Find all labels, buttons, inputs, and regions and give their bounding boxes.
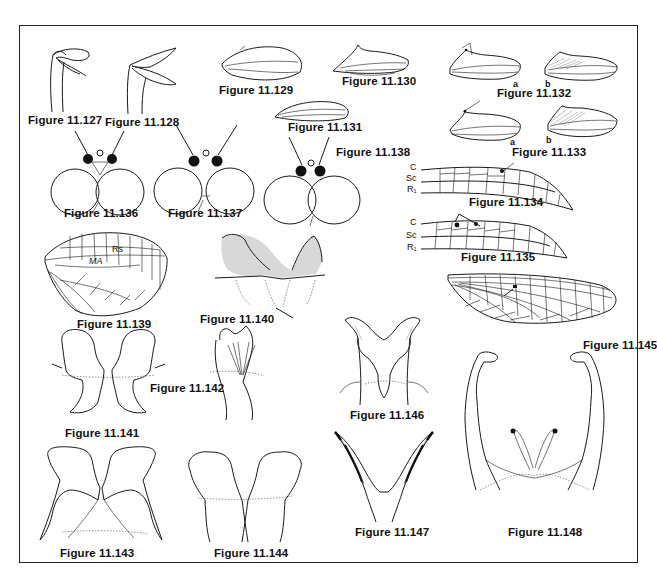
vein-label-c-11-135: C [410, 217, 417, 227]
vein-label-ma: MA [89, 256, 103, 266]
vein-label-r1-11-134: R₁ [407, 184, 417, 194]
figure-label-11-130: Figure 11.130 [342, 75, 416, 87]
figure-label-11-137: Figure 11.137 [168, 207, 242, 219]
figure-11-148-drawing [465, 352, 604, 490]
figure-11-128-drawing [127, 48, 176, 114]
figure-11-139-drawing [45, 233, 167, 316]
figure-11-144-drawing [189, 452, 302, 542]
vein-label-c-11-134: C [410, 162, 417, 172]
figure-label-11-148: Figure 11.148 [508, 526, 582, 538]
figure-label-11-133: Figure 11.133 [512, 146, 586, 158]
figure-label-11-138: Figure 11.138 [336, 146, 410, 158]
vein-label-sc-11-134: Sc [406, 173, 417, 183]
vein-label-r1-11-135: R₁ [407, 242, 417, 252]
figure-label-11-145: Figure 11.145 [583, 339, 657, 351]
figure-label-11-131: Figure 11.131 [288, 121, 362, 133]
figure-label-11-142: Figure 11.142 [150, 382, 224, 394]
figure-label-11-134: Figure 11.134 [469, 196, 543, 208]
figure-11-141-drawing [52, 330, 165, 413]
figure-11-143-drawing [40, 447, 162, 540]
figure-label-11-143: Figure 11.143 [60, 547, 134, 559]
figure-11-145-drawing [448, 274, 616, 323]
figure-label-11-147: Figure 11.147 [355, 526, 429, 538]
figure-label-11-129: Figure 11.129 [219, 84, 293, 96]
figure-label-11-132: Figure 11.132 [497, 87, 571, 99]
figure-11-140-drawing [215, 234, 325, 318]
figure-11-133-drawing [450, 101, 617, 140]
vein-label-rs: Rs [112, 244, 123, 254]
figure-label-11-144: Figure 11.144 [214, 547, 288, 559]
figure-11-127-drawing [51, 49, 89, 112]
figure-11-137-drawing [154, 125, 254, 214]
figure-label-11-135: Figure 11.135 [461, 251, 535, 263]
figure-11-142-drawing [210, 326, 264, 420]
vein-label-sc-11-135: Sc [406, 230, 417, 240]
figure-11-147-drawing [335, 432, 433, 522]
figure-11-146-drawing [340, 318, 428, 405]
figure-label-11-127: Figure 11.127 [28, 114, 102, 126]
figure-label-11-141: Figure 11.141 [65, 427, 139, 439]
figure-label-11-140: Figure 11.140 [200, 313, 274, 325]
figure-11-129-drawing [222, 46, 302, 80]
figure-label-11-128: Figure 11.128 [105, 116, 179, 128]
figure-label-11-146: Figure 11.146 [350, 409, 424, 421]
figure-11-132-drawing [450, 43, 617, 80]
figure-label-11-136: Figure 11.136 [64, 207, 138, 219]
figure-label-11-139: Figure 11.139 [77, 318, 151, 330]
figure-11-136-drawing [51, 131, 144, 215]
figure-11-130-drawing [333, 45, 408, 75]
sub-label-11-133-b: b [546, 135, 552, 145]
figure-11-131-drawing [275, 102, 348, 121]
